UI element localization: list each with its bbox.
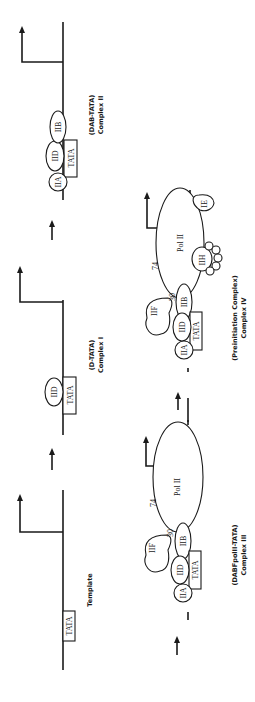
caption-complex-iv-line1: (Preinitiation Complex) xyxy=(231,275,239,360)
stage-complex-iv: Pol II IE IIH 74 IIF 30 IIB TATA IID IIA… xyxy=(144,188,248,372)
pol-ii-protein xyxy=(153,422,203,532)
svg-text:IIB: IIB xyxy=(180,297,189,308)
caption-template: Template xyxy=(86,573,94,607)
arrowhead-icon xyxy=(144,192,150,199)
transcription-complex-diagram: TATA Template TATA IID (D-TATA) Complex … xyxy=(0,0,255,702)
arrowhead-icon xyxy=(143,436,149,443)
progress-arrow xyxy=(175,392,181,410)
stage-complex-ii: TATA IIA IID IIB (DAB-TATA) Complex II xyxy=(19,22,105,200)
svg-text:TATA: TATA xyxy=(192,321,201,340)
svg-text:74: 74 xyxy=(149,499,158,507)
stage-complex-iii: Pol II 74 IIF 30 IIB TATA IID IIA (DABFp… xyxy=(143,398,248,620)
stage-template: TATA Template xyxy=(17,490,94,670)
svg-text:IIB: IIB xyxy=(179,536,188,547)
svg-text:TATA: TATA xyxy=(65,616,74,635)
svg-text:Pol II: Pol II xyxy=(173,478,182,496)
iih-subunit xyxy=(214,254,222,262)
caption-complex-ii-line1: (DAB-TATA) xyxy=(88,95,96,136)
svg-text:TATA: TATA xyxy=(67,148,76,167)
svg-text:IID: IID xyxy=(176,564,185,575)
caption-complex-iii-line2: Complex III xyxy=(240,534,248,575)
caption-complex-iii-line1: (DABFpolII-TATA) xyxy=(231,524,239,585)
transcription-start-arrow xyxy=(147,196,158,228)
transcription-start-arrow xyxy=(20,270,63,302)
svg-text:IIH: IIH xyxy=(198,254,207,265)
iih-subunit xyxy=(206,267,214,275)
svg-text:TATA: TATA xyxy=(191,560,200,579)
svg-text:IID: IID xyxy=(50,386,59,397)
iih-subunit xyxy=(212,246,220,254)
svg-text:IIF: IIF xyxy=(148,543,157,553)
svg-text:IIB: IIB xyxy=(54,122,63,133)
progress-arrow xyxy=(49,448,55,470)
svg-text:74: 74 xyxy=(151,262,160,270)
svg-text:IIF: IIF xyxy=(150,306,159,316)
diagram-svg: TATA Template TATA IID (D-TATA) Complex … xyxy=(0,0,255,702)
transcription-start-arrow xyxy=(20,498,63,532)
svg-text:IIA: IIA xyxy=(179,587,188,598)
arrowhead-icon xyxy=(19,26,25,33)
svg-text:30: 30 xyxy=(166,529,175,537)
progress-arrow xyxy=(174,636,180,655)
svg-text:IIA: IIA xyxy=(180,344,189,355)
caption-complex-i-line1: (D-TATA) xyxy=(88,340,96,371)
arrowhead-icon xyxy=(17,494,23,501)
caption-complex-i-line2: Complex I xyxy=(97,337,105,373)
progress-arrow xyxy=(49,220,55,240)
svg-text:IID: IID xyxy=(178,321,187,332)
svg-text:TATA: TATA xyxy=(66,385,75,404)
caption-complex-iv-line2: Complex IV xyxy=(240,297,248,338)
svg-text:Pol II: Pol II xyxy=(176,234,185,252)
svg-text:IE: IE xyxy=(200,200,209,208)
transcription-start-arrow xyxy=(22,30,63,62)
caption-complex-ii-line2: Complex II xyxy=(97,96,105,135)
svg-text:IID: IID xyxy=(51,150,60,161)
svg-text:IIA: IIA xyxy=(54,176,63,187)
arrowhead-icon xyxy=(17,266,23,273)
stage-complex-i: TATA IID (D-TATA) Complex I xyxy=(17,266,105,435)
